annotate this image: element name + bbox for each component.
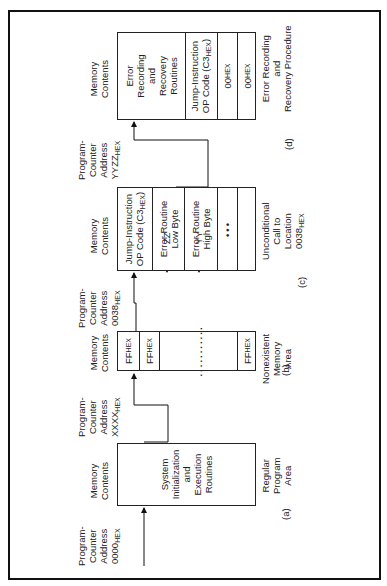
cell-text: 00	[242, 78, 253, 89]
pc-label: Program-	[76, 288, 87, 328]
panel-b-memory-box: FFHEX FFHEX ........... FFHEX	[117, 331, 256, 371]
memory-label: Memory	[88, 217, 99, 255]
caption-text: Regular	[260, 458, 271, 494]
cell-text: Initialization	[170, 450, 181, 500]
memory-label: Contents	[99, 60, 110, 98]
pc-label: Address	[98, 397, 109, 437]
pointer-zz: ZZ	[161, 232, 172, 244]
memory-cell: Jump-Instruction OP Code (C3HEX)	[118, 188, 152, 270]
panel-b-memory-header: Memory Contents	[88, 334, 110, 372]
cell-text: Low Byte	[169, 201, 180, 258]
panel-a-pc-address: Program- Counter Address 0000HEX	[76, 526, 123, 566]
cell-text: Error Routine	[190, 201, 201, 258]
hex-suffix: HEX	[205, 42, 212, 56]
memory-cell-empty	[237, 188, 257, 270]
hex-suffix: HEX	[114, 290, 121, 304]
cell-text: Jump-Instruction	[189, 39, 200, 113]
cell-text: and	[146, 54, 157, 97]
memory-label: Contents	[99, 334, 110, 372]
caption-text: Memory	[271, 334, 282, 384]
caption-text: Error Recording	[260, 25, 271, 112]
hex-suffix: HEX	[242, 338, 253, 352]
hex-suffix: HEX	[114, 141, 121, 155]
pc-label: Address	[98, 288, 109, 328]
cell-text: Recording	[135, 54, 146, 97]
caption-text: Area	[282, 458, 293, 494]
pointer-yy: YY	[193, 231, 204, 244]
memory-cell: Error Recording and Recovery Routines	[118, 33, 185, 119]
panel-b-pc-address: Program- Counter Address XXXXHEX	[76, 397, 123, 437]
pc-label: Address	[98, 526, 109, 566]
pc-label: Counter	[87, 397, 98, 437]
memory-cell: Error RoutineLow Byte	[152, 188, 184, 270]
cell-text: Error	[124, 54, 135, 97]
memory-cell: FFHEX	[139, 332, 159, 370]
cell-text: and	[181, 450, 192, 500]
address-value: XXXX	[109, 412, 120, 437]
cell-text: Execution	[192, 450, 203, 500]
cell-text: System	[159, 450, 170, 500]
panel-a-memory-box: System Initialization and Execution Rout…	[117, 443, 256, 506]
panel-d-pc-address: Program- Counter Address YYZZHEX	[76, 140, 123, 180]
hex-suffix: HEX	[222, 64, 233, 78]
caption-text: Area	[282, 334, 293, 384]
panel-d-memory-header: Memory Contents	[88, 60, 110, 98]
hex-suffix: HEX	[114, 397, 121, 411]
cell-text: OP Code (C3	[134, 209, 145, 266]
memory-cell: FFHEX	[237, 332, 257, 370]
cell-text: FF	[242, 352, 253, 364]
panel-c-pc-address: Program- Counter Address 0038HEX	[76, 288, 123, 328]
address-value: 0038	[109, 305, 120, 326]
caption-text: Call to	[271, 202, 282, 260]
memory-cell: 00HEX	[217, 33, 237, 119]
memory-label: Memory	[88, 334, 99, 372]
caption-text: and	[271, 25, 282, 112]
memory-label: Memory	[88, 60, 99, 98]
cell-text: •••	[222, 221, 233, 237]
cell-text: FF	[123, 352, 134, 364]
memory-cell: FFHEX	[118, 332, 139, 370]
cell-text: Jump-Instruction	[123, 192, 134, 266]
address-value: 0000	[109, 543, 120, 564]
panel-c-memory-box: Jump-Instruction OP Code (C3HEX) Error R…	[117, 187, 256, 271]
cell-text: Recovery	[157, 54, 168, 97]
memory-cell: Error RoutineHigh Byte	[184, 188, 217, 270]
memory-label: Memory	[88, 462, 99, 500]
pc-label: Counter	[87, 526, 98, 566]
cell-text: Routines	[203, 450, 214, 500]
cell-text: Routines	[168, 54, 179, 97]
memory-label: Contents	[99, 462, 110, 500]
cell-text: )	[200, 39, 211, 42]
caption-text: 0038	[293, 228, 304, 249]
hex-suffix: HEX	[123, 338, 134, 352]
memory-diagram: Program- Counter Address 0000HEX Memory …	[8, 10, 381, 580]
cell-text: Error Routine	[158, 201, 169, 258]
panel-b-label: (b)	[280, 364, 291, 376]
memory-label: Contents	[99, 217, 110, 255]
pc-label: Counter	[87, 140, 98, 180]
panel-a-memory-header: Memory Contents	[88, 462, 110, 500]
memory-cell-ellipsis: ...........	[159, 332, 237, 370]
cell-text: ...........	[193, 325, 204, 376]
caption-text: Recovery Procedure	[282, 25, 293, 112]
hex-suffix: HEX	[242, 64, 253, 78]
pc-label: Address	[98, 140, 109, 180]
pc-label: Program-	[76, 397, 87, 437]
panel-a-caption: Regular Program Area	[260, 458, 293, 494]
panel-d-label: (d)	[283, 138, 294, 150]
pc-label: Program-	[76, 140, 87, 180]
hex-suffix: HEX	[144, 338, 155, 352]
panel-d-caption: Error Recording and Recovery Procedure	[260, 25, 293, 112]
panel-c-memory-header: Memory Contents	[88, 217, 110, 255]
panel-c-caption: Unconditional Call to Location 0038HEX	[260, 202, 307, 260]
panel-a-label: (a)	[280, 508, 291, 520]
panel-b-caption: Nonexistent Memory Area	[260, 334, 293, 384]
panel-d-memory-box: Error Recording and Recovery Routines Ju…	[117, 32, 256, 120]
panel-c-label: (c)	[296, 277, 307, 288]
hex-suffix: HEX	[139, 195, 146, 209]
memory-cell-ellipsis: •••	[217, 188, 237, 270]
pc-label: Program-	[76, 526, 87, 566]
caption-text: Nonexistent	[260, 334, 271, 384]
hex-suffix: HEX	[114, 528, 121, 542]
pc-label: Counter	[87, 288, 98, 328]
